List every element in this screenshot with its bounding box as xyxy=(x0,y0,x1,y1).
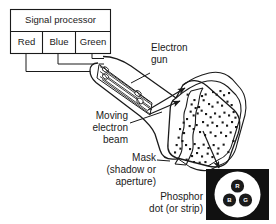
electron-gun-label-line1: Electron xyxy=(151,42,188,54)
green-phosphor-dot-letter: G xyxy=(239,197,252,203)
channel-cell-green: Green xyxy=(76,36,110,47)
mask-label-line3: aperture) xyxy=(78,176,156,188)
moving-beam-label-line1: Moving xyxy=(58,110,128,122)
moving-beam-label-line3: beam xyxy=(58,134,128,146)
electron-gun-label-line2: gun xyxy=(151,54,168,66)
channel-cell-red: Red xyxy=(11,36,42,47)
red-phosphor-dot-letter: R xyxy=(231,183,244,189)
mask-label-line1: Mask xyxy=(78,152,156,164)
phosphor-detail-inset xyxy=(207,170,269,220)
phosphor-label-line1: Phosphor xyxy=(126,191,203,203)
crt-diagram-figure: Signal processor Red Blue Green Electron… xyxy=(0,0,276,224)
moving-beam-label-line2: electron xyxy=(58,122,128,134)
phosphor-label-line2: dot (or strip) xyxy=(116,203,203,215)
channel-cell-blue: Blue xyxy=(43,36,75,47)
mask-label-line2: (shadow or xyxy=(78,164,156,176)
signal-processor-header: Signal processor xyxy=(11,14,110,25)
blue-phosphor-dot-letter: B xyxy=(223,197,236,203)
